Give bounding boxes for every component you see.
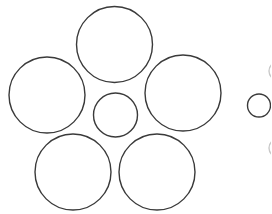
right-group	[248, 62, 272, 157]
surround-circle-top	[77, 7, 153, 83]
surround-circle-bottom-left	[35, 134, 111, 210]
partial-arc-top	[269, 62, 271, 80]
ebbinghaus-figure	[0, 0, 271, 214]
partial-arc-bottom	[269, 139, 271, 157]
center-circle-right-group	[248, 94, 271, 117]
center-circle-left-group	[94, 93, 138, 137]
surround-circle-bottom-right	[119, 134, 195, 210]
surround-circle-left	[9, 57, 85, 133]
surround-circle-right	[145, 55, 221, 131]
left-group	[9, 7, 221, 211]
